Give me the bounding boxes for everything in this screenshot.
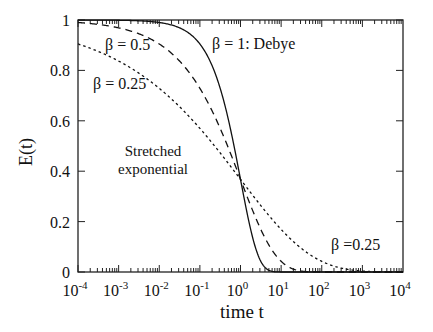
x-axis-title: time t	[220, 301, 265, 322]
x-tick-label: 101	[267, 279, 289, 299]
x-tick-label: 104	[389, 279, 411, 299]
y-tick-label: 0	[62, 264, 70, 281]
y-tick-label: 0.8	[50, 62, 70, 79]
annotation-beta-0-5: β = 0.5	[105, 36, 150, 54]
annotation-beta-0-25-top: β = 0.25	[93, 75, 146, 93]
y-tick-label: 0.6	[50, 113, 70, 130]
x-tick-label: 100	[227, 279, 249, 299]
x-tick-labels: 10-410-310-210-1100101102103104	[62, 279, 411, 299]
x-tick-label: 10-3	[103, 279, 129, 299]
annotation-debye: β = 1: Debye	[212, 35, 295, 53]
x-tick-label: 10-4	[62, 279, 88, 299]
y-tick-labels: 0 0.2 0.4 0.6 0.8 1	[50, 12, 70, 281]
x-tick-label: 10-2	[144, 279, 169, 299]
x-tick-label: 102	[308, 279, 330, 299]
annotation-beta-0-25-bottom: β =0.25	[331, 236, 380, 254]
x-tick-label: 103	[349, 279, 371, 299]
stretched-exponential-chart: 0 0.2 0.4 0.6 0.8 1 10-410-310-210-11001…	[0, 0, 433, 332]
y-tick-label: 0.4	[50, 163, 70, 180]
y-tick-label: 0.2	[50, 214, 70, 231]
y-tick-label: 1	[62, 12, 70, 29]
y-axis-title: E(t)	[16, 138, 37, 166]
x-tick-label: 10-1	[184, 279, 209, 299]
annotation-exponential: exponential	[118, 161, 188, 177]
annotation-stretched: Stretched	[125, 143, 182, 159]
